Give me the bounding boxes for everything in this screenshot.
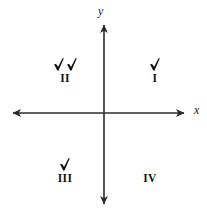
quadrant-4-group: IV	[119, 156, 181, 185]
quadrant-4-label: IV	[143, 173, 156, 185]
quadrant-2-group: II	[34, 56, 96, 85]
quadrant-1-group: I	[124, 56, 186, 85]
quadrant-3-checkmarks	[59, 156, 71, 171]
quadrant-1-label: I	[153, 73, 158, 85]
quadrant-3-group: III	[34, 156, 96, 185]
coordinate-plane-figure: y x I II III IV	[0, 0, 207, 219]
check-icon	[66, 57, 78, 71]
quadrant-3-label: III	[58, 173, 72, 185]
check-icon	[59, 157, 71, 171]
y-axis-label: y	[98, 5, 103, 17]
check-icon	[149, 57, 161, 71]
quadrant-1-checkmarks	[149, 56, 161, 71]
check-icon	[53, 57, 65, 71]
x-axis-label: x	[194, 104, 199, 116]
axes-group	[0, 0, 207, 219]
quadrant-2-checkmarks	[53, 56, 78, 71]
quadrant-2-label: II	[60, 73, 70, 85]
